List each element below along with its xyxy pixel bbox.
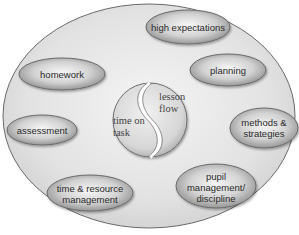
factor-label-time-resource-management: time & resource management [47, 182, 133, 206]
center-label-lesson-flow: lesson flow [159, 90, 191, 116]
factor-label-pupil-management: pupil management/ discipline [176, 170, 256, 204]
center-label-time-on-task: time on task [113, 114, 149, 140]
factor-label-assessment: assessment [7, 122, 77, 138]
factor-label-homework: homework [19, 66, 105, 82]
factor-label-high-expectations: high expectations [146, 18, 230, 36]
factor-label-planning: planning [190, 62, 266, 78]
factor-label-methods-strategies: methods & strategies [230, 116, 298, 140]
teaching-factors-diagram: high expectations planning methods & str… [0, 0, 299, 235]
